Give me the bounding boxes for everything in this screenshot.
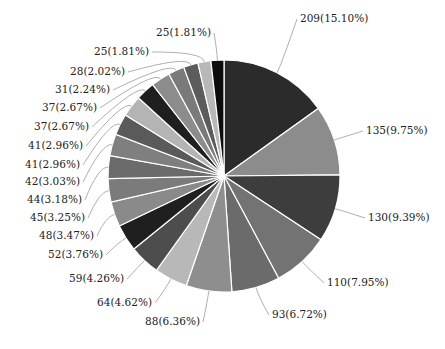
slice-label: 209(15.10%) — [300, 12, 368, 24]
slice-label: 42(3.03%) — [25, 175, 80, 187]
slice-label: 93(6.72%) — [272, 308, 327, 320]
leader-line — [302, 262, 324, 283]
slice-label: 37(2.67%) — [34, 120, 89, 132]
pie-slices — [108, 60, 340, 292]
slice-label: 110(7.95%) — [327, 276, 389, 288]
slice-label: 48(3.47%) — [39, 229, 94, 241]
slice-label: 44(3.18%) — [27, 193, 82, 205]
slice-label: 31(2.24%) — [55, 83, 110, 95]
slice-label: 41(2.96%) — [25, 158, 80, 170]
slice-label: 25(1.81%) — [94, 45, 149, 57]
leader-line — [214, 33, 217, 60]
leader-line — [256, 288, 269, 316]
leader-line — [277, 19, 297, 73]
slice-label: 135(9.75%) — [366, 124, 428, 136]
leader-line — [106, 238, 126, 255]
slice-label: 28(2.02%) — [70, 65, 125, 77]
leader-line — [335, 209, 365, 218]
slice-label: 25(1.81%) — [156, 26, 211, 38]
slice-label: 41(2.96%) — [28, 139, 83, 151]
slice-label: 37(2.67%) — [42, 101, 97, 113]
pie-chart: 209(15.10%)135(9.75%)130(9.39%)110(7.95%… — [0, 0, 445, 349]
slice-label: 64(4.62%) — [97, 296, 152, 308]
leader-line — [334, 131, 363, 140]
slice-label: 52(3.76%) — [48, 248, 103, 260]
slice-label: 130(9.39%) — [368, 211, 430, 223]
leader-line — [155, 279, 171, 303]
leader-line — [88, 190, 109, 218]
leader-line — [152, 52, 204, 62]
leader-line — [97, 214, 115, 236]
leader-line — [127, 260, 144, 279]
slice-label: 88(6.36%) — [145, 315, 200, 327]
slice-label: 59(4.26%) — [69, 272, 124, 284]
slice-label: 45(3.25%) — [30, 211, 85, 223]
leader-line — [203, 291, 209, 322]
